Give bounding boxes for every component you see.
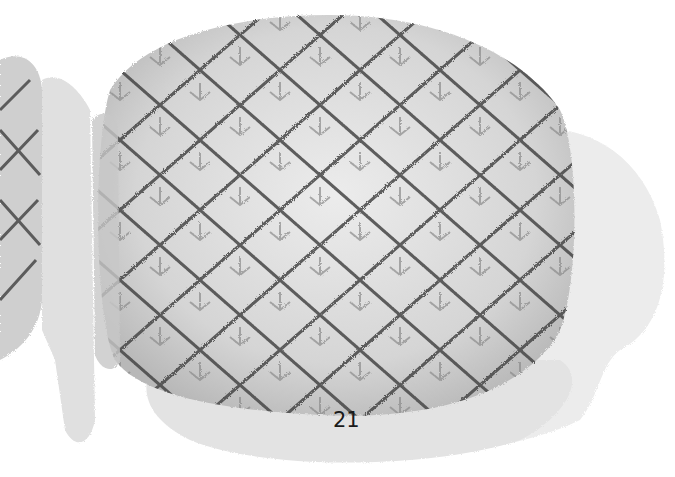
- left-stripe: [42, 77, 95, 442]
- page-number: 21: [333, 408, 360, 432]
- pineapple-illustration: [0, 0, 675, 477]
- pineapple-artwork: [0, 0, 675, 477]
- body-edge: [92, 113, 120, 369]
